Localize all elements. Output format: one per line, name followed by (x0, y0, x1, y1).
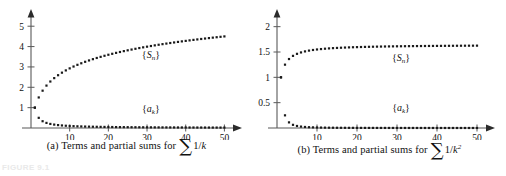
data-point (376, 127, 378, 129)
data-point (420, 45, 422, 47)
data-point (111, 53, 113, 55)
data-point (396, 45, 398, 47)
data-point (340, 47, 342, 49)
data-point (416, 45, 418, 47)
data-point (456, 127, 458, 129)
data-point (472, 45, 474, 47)
series-annotation-label: {ak} (392, 102, 410, 115)
data-point (107, 126, 109, 128)
data-point (84, 61, 86, 63)
plot-svg-b: 10203040500.511.52 {Sn}{ak} (253, 0, 506, 140)
data-point (127, 126, 129, 128)
data-point (432, 45, 434, 47)
data-point (364, 127, 366, 129)
data-point (61, 124, 63, 126)
data-point (80, 62, 82, 64)
data-point (356, 46, 358, 48)
data-point (312, 126, 314, 128)
series-label-group-b: {Sn}{ak} (392, 52, 410, 116)
data-point (169, 126, 171, 128)
data-point (223, 126, 225, 128)
data-point (412, 127, 414, 129)
data-point (448, 127, 450, 129)
data-point (288, 58, 290, 60)
data-point (320, 48, 322, 50)
data-point (292, 55, 294, 57)
data-point (208, 37, 210, 39)
y-tick-label: 4 (19, 42, 24, 52)
y-tick-label: 3 (19, 62, 24, 72)
data-point (212, 37, 214, 39)
data-point (420, 127, 422, 129)
x-axis-arrow-icon (233, 124, 242, 131)
data-point (96, 57, 98, 59)
data-point (53, 124, 55, 126)
data-point (204, 37, 206, 39)
data-point (440, 45, 442, 47)
data-point (134, 126, 136, 128)
y-tick-label: 0.5 (258, 98, 270, 108)
data-point (444, 45, 446, 47)
data-point (296, 125, 298, 127)
data-point (216, 126, 218, 128)
data-point (45, 84, 47, 86)
data-point (340, 127, 342, 129)
series-annotation-label: {Sn} (392, 52, 410, 65)
data-point (308, 126, 310, 128)
data-point (200, 38, 202, 40)
data-point (404, 45, 406, 47)
data-point (312, 49, 314, 51)
series-annotation-label: {Sn} (142, 49, 160, 62)
data-point (45, 122, 47, 124)
axes-group-b (268, 9, 495, 132)
data-point (161, 43, 163, 45)
data-point (416, 127, 418, 129)
data-point (332, 127, 334, 129)
data-point (472, 127, 474, 129)
data-point (344, 46, 346, 48)
data-point (65, 69, 67, 71)
y-tick-label: 2 (19, 83, 24, 93)
data-point (216, 36, 218, 38)
data-point (448, 45, 450, 47)
data-point (424, 127, 426, 129)
data-point (348, 46, 350, 48)
data-point (440, 127, 442, 129)
data-point (388, 45, 390, 47)
data-point (476, 45, 478, 47)
data-point (316, 126, 318, 128)
data-point (158, 126, 160, 128)
data-point (196, 126, 198, 128)
data-point (154, 126, 156, 128)
data-point (76, 64, 78, 66)
data-point (208, 126, 210, 128)
data-point (34, 107, 36, 109)
data-point (165, 126, 167, 128)
data-point (154, 44, 156, 46)
data-point (188, 39, 190, 41)
data-point (348, 127, 350, 129)
data-point (165, 42, 167, 44)
data-point (468, 45, 470, 47)
data-point (38, 117, 40, 119)
data-point (352, 46, 354, 48)
y-tick-label: 2 (265, 22, 270, 32)
data-point (380, 45, 382, 47)
data-point (464, 127, 466, 129)
data-point (352, 127, 354, 129)
data-point (332, 47, 334, 49)
chart-panel-a: 102030405012345 {Sn}{ak} (a) Terms and p… (0, 0, 253, 176)
data-point (111, 126, 113, 128)
data-point (65, 125, 67, 127)
y-tick-label: 1 (265, 73, 270, 83)
y-tick-label: 5 (19, 22, 24, 32)
data-point (436, 127, 438, 129)
data-point (181, 40, 183, 42)
axes-group-a (22, 9, 242, 132)
data-point (123, 126, 125, 128)
data-point (468, 127, 470, 129)
data-point (76, 125, 78, 127)
data-point (300, 125, 302, 127)
summation-icon: ∑ (431, 139, 444, 160)
y-axis-arrow-icon (274, 9, 281, 18)
